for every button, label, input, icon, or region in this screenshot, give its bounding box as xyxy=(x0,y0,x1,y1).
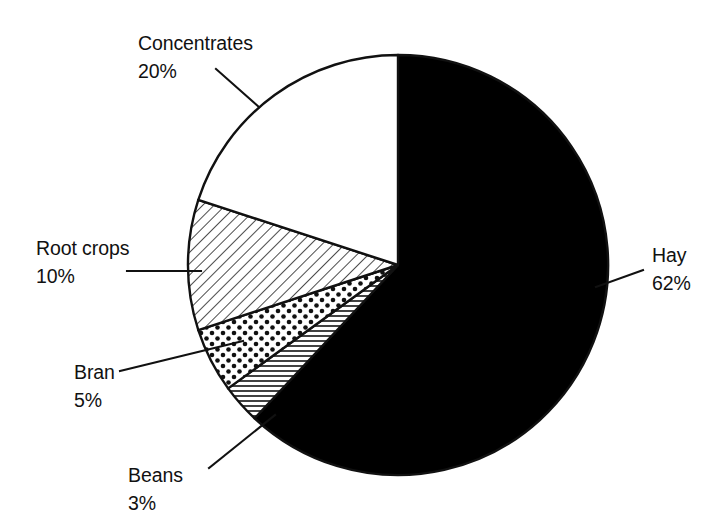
slice-label-concentrates: Concentrates xyxy=(138,32,253,54)
pie-chart: Concentrates 20% Root crops 10% Bran 5% … xyxy=(0,0,716,520)
slice-value-concentrates: 20% xyxy=(138,60,177,82)
leader-line-concentrates xyxy=(216,69,259,107)
slice-label-hay: Hay xyxy=(652,244,687,266)
slice-value-bran: 5% xyxy=(74,389,102,411)
leader-line-beans xyxy=(209,415,275,468)
slice-value-root-crops: 10% xyxy=(36,265,75,287)
slice-value-beans: 3% xyxy=(128,492,156,514)
slice-label-bran: Bran xyxy=(74,361,115,383)
pie-chart-canvas: Concentrates 20% Root crops 10% Bran 5% … xyxy=(0,0,716,520)
slice-label-root-crops: Root crops xyxy=(36,237,130,259)
slice-value-hay: 62% xyxy=(652,272,691,294)
slice-label-beans: Beans xyxy=(128,464,183,486)
